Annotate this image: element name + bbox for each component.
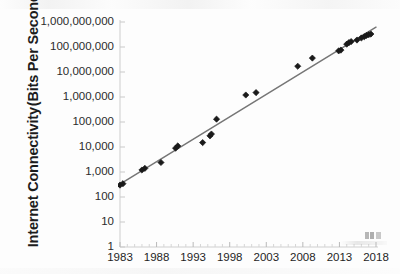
plot-area <box>118 18 380 250</box>
y-axis-ticks <box>120 22 125 247</box>
y-axis-tick-label: 10,000 <box>79 141 114 153</box>
y-axis-tick-labels: 1,000,000,000100,000,00010,000,0001,000,… <box>0 0 114 274</box>
y-axis-tick-label: 1,000 <box>85 166 114 178</box>
plot-svg <box>118 18 380 250</box>
x-axis-tick-label: 2008 <box>290 252 316 264</box>
x-axis-tick-label: 2003 <box>253 252 279 264</box>
data-point-marker <box>295 63 301 69</box>
scan-noise-band-top <box>0 0 400 9</box>
scan-artifact-smudge <box>341 241 387 245</box>
y-axis-title-line-2: (Bits Per Second) <box>26 0 41 106</box>
y-axis-title-line-1: Internet Connectivity <box>26 107 41 247</box>
data-point-marker <box>309 55 315 61</box>
x-axis-tick-label: 1988 <box>144 252 170 264</box>
y-axis-tick-label: 1,000,000,000 <box>40 16 114 28</box>
scan-noise-band-bottom <box>0 268 400 274</box>
y-axis-title: Internet Connectivity (Bits Per Second) <box>11 28 55 208</box>
data-points <box>118 31 374 188</box>
x-axis-tick-label: 1993 <box>180 252 206 264</box>
data-point-marker <box>200 139 206 145</box>
x-axis-tick-label: 2013 <box>327 252 353 264</box>
y-axis-tick-label: 10,000,000 <box>56 66 114 78</box>
y-axis-tick-label: 1 <box>108 241 114 253</box>
y-axis-tick-label: 100,000,000 <box>50 41 114 53</box>
y-axis-tick-label: 100 <box>95 191 114 203</box>
axis-lines <box>120 20 378 247</box>
data-point-marker <box>243 92 249 98</box>
y-axis-tick-label: 10 <box>101 216 114 228</box>
scan-artifact-mark <box>365 232 381 239</box>
x-axis-tick-label: 1998 <box>217 252 243 264</box>
chart-screenshot: Internet Connectivity (Bits Per Second) … <box>0 0 400 274</box>
data-point-marker <box>213 116 219 122</box>
x-axis-tick-label: 1983 <box>107 252 133 264</box>
y-axis-tick-label: 100,000 <box>72 116 114 128</box>
data-point-marker <box>253 89 259 95</box>
y-axis-tick-label: 1,000,000 <box>63 91 114 103</box>
x-axis-ticks <box>120 242 376 247</box>
x-axis-tick-label: 2018 <box>363 252 389 264</box>
